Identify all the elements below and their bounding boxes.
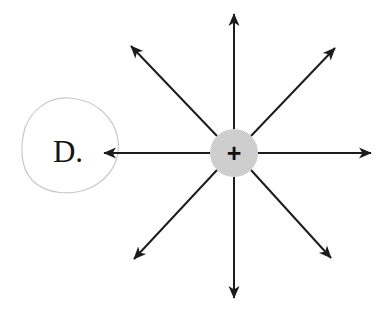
region-d-label: D. xyxy=(53,134,83,169)
figure-canvas: D. + xyxy=(0,0,391,313)
charge-plus-sign: + xyxy=(227,139,242,167)
electric-field-diagram: D. + xyxy=(0,0,391,313)
